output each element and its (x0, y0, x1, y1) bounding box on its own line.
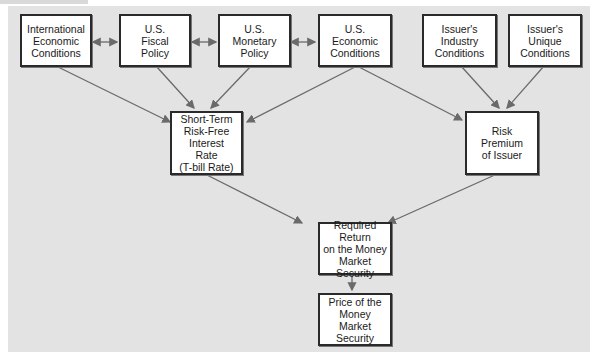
node-short-term-risk-free-rate: Short-Term Risk-Free Interest Rate (T-bi… (170, 111, 243, 175)
node-issuers-unique-conditions: Issuer's Unique Conditions (508, 14, 582, 67)
node-us-monetary-policy: U.S. Monetary Policy (218, 14, 291, 67)
node-label: Price of the Money Market Security (322, 296, 388, 344)
node-risk-premium-of-issuer: Risk Premium of Issuer (465, 111, 539, 175)
node-label: Issuer's Industry Conditions (435, 23, 485, 59)
node-label: U.S. Fiscal Policy (141, 23, 169, 59)
node-label: International Economic Conditions (27, 23, 85, 59)
node-issuers-industry-conditions: Issuer's Industry Conditions (422, 14, 497, 67)
node-label: U.S. Economic Conditions (330, 23, 380, 59)
node-price-of-security: Price of the Money Market Security (318, 293, 392, 346)
node-label: Issuer's Unique Conditions (520, 23, 570, 59)
node-label: Risk Premium of Issuer (481, 125, 523, 161)
node-label: Short-Term Risk-Free Interest Rate (T-bi… (179, 113, 233, 173)
node-label: Required Return on the Money Market Secu… (322, 219, 388, 279)
node-international-economic-conditions: International Economic Conditions (20, 14, 92, 67)
node-us-fiscal-policy: U.S. Fiscal Policy (119, 14, 191, 67)
node-required-return: Required Return on the Money Market Secu… (318, 222, 392, 275)
node-label: U.S. Monetary Policy (233, 23, 277, 59)
node-us-economic-conditions: U.S. Economic Conditions (318, 14, 392, 67)
